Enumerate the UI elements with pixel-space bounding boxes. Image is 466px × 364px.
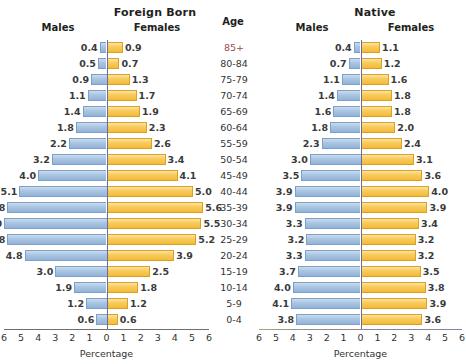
- female-value-label: 3.5: [423, 265, 440, 278]
- female-bar[interactable]: [108, 234, 197, 245]
- male-bar[interactable]: [354, 42, 361, 53]
- x-axis-tick-label: 2: [387, 332, 401, 343]
- male-bar[interactable]: [25, 250, 107, 261]
- female-bar[interactable]: [108, 106, 140, 117]
- male-bar[interactable]: [7, 202, 106, 213]
- x-axis-tick-label: 2: [134, 332, 148, 343]
- male-bar[interactable]: [7, 234, 106, 245]
- female-bar[interactable]: [362, 250, 416, 261]
- female-value-label: 1.9: [142, 105, 159, 118]
- female-value-label: 1.2: [384, 57, 401, 70]
- female-bar[interactable]: [362, 314, 423, 325]
- male-bar[interactable]: [306, 234, 360, 245]
- female-bar[interactable]: [108, 314, 118, 325]
- male-bar[interactable]: [295, 186, 361, 197]
- female-value-label: 3.4: [168, 153, 185, 166]
- male-bar[interactable]: [301, 170, 360, 181]
- female-bar[interactable]: [108, 74, 130, 85]
- x-axis-tick-label: 6: [0, 332, 11, 343]
- foreign-born-males-label: Males: [18, 22, 98, 33]
- male-bar[interactable]: [91, 74, 106, 85]
- male-bar[interactable]: [86, 298, 107, 309]
- female-bar[interactable]: [108, 90, 137, 101]
- female-bar[interactable]: [362, 42, 381, 53]
- female-bar[interactable]: [108, 170, 178, 181]
- female-bar[interactable]: [108, 202, 204, 213]
- x-axis-tick-label: 2: [320, 332, 334, 343]
- male-value-label: 1.1: [69, 89, 86, 102]
- male-bar[interactable]: [96, 314, 106, 325]
- male-bar[interactable]: [296, 314, 360, 325]
- female-bar[interactable]: [108, 298, 129, 309]
- female-bar[interactable]: [362, 74, 389, 85]
- female-bar[interactable]: [362, 298, 428, 309]
- male-bar[interactable]: [88, 90, 107, 101]
- pyramid-row: 4.13.9: [259, 296, 462, 312]
- female-bar[interactable]: [362, 170, 423, 181]
- male-bar[interactable]: [19, 186, 106, 197]
- male-bar[interactable]: [305, 218, 361, 229]
- male-bar[interactable]: [330, 122, 360, 133]
- pyramid-row: 6.05.5: [4, 216, 209, 232]
- age-group-label: 25-29: [206, 232, 262, 248]
- male-value-label: 3.3: [286, 249, 303, 262]
- female-bar[interactable]: [108, 250, 175, 261]
- female-bar[interactable]: [108, 154, 166, 165]
- female-bar[interactable]: [108, 186, 193, 197]
- female-value-label: 2.4: [404, 137, 421, 150]
- female-bar[interactable]: [108, 58, 120, 69]
- age-group-label: 20-24: [206, 248, 262, 264]
- male-bar[interactable]: [52, 154, 107, 165]
- female-bar[interactable]: [362, 138, 403, 149]
- female-bar[interactable]: [362, 90, 392, 101]
- female-bar[interactable]: [362, 234, 416, 245]
- male-bar[interactable]: [349, 58, 361, 69]
- male-bar[interactable]: [295, 202, 361, 213]
- female-bar[interactable]: [108, 122, 147, 133]
- male-bar[interactable]: [98, 58, 107, 69]
- male-bar[interactable]: [100, 42, 107, 53]
- x-axis-tick-label: 6: [252, 332, 266, 343]
- female-value-label: 1.8: [394, 105, 411, 118]
- female-bar[interactable]: [362, 186, 430, 197]
- x-axis-tick-label: 0: [100, 332, 114, 343]
- female-bar[interactable]: [108, 138, 152, 149]
- male-value-label: 3.0: [36, 265, 53, 278]
- male-value-label: 5.8: [0, 233, 5, 246]
- male-bar[interactable]: [69, 138, 107, 149]
- age-group-label: 30-34: [206, 216, 262, 232]
- male-bar[interactable]: [310, 154, 361, 165]
- female-bar[interactable]: [108, 282, 139, 293]
- male-bar[interactable]: [83, 106, 107, 117]
- female-bar[interactable]: [108, 42, 123, 53]
- male-bar[interactable]: [305, 250, 361, 261]
- female-bar[interactable]: [362, 266, 421, 277]
- pyramid-row: 3.02.5: [4, 264, 209, 280]
- female-bar[interactable]: [108, 266, 151, 277]
- male-bar[interactable]: [293, 282, 361, 293]
- female-value-label: 2.3: [149, 121, 166, 134]
- female-bar[interactable]: [362, 202, 428, 213]
- pyramid-row: 3.33.4: [259, 216, 462, 232]
- male-bar[interactable]: [76, 122, 107, 133]
- female-bar[interactable]: [362, 282, 426, 293]
- female-bar[interactable]: [362, 218, 420, 229]
- male-bar[interactable]: [337, 90, 361, 101]
- male-bar[interactable]: [298, 266, 361, 277]
- male-bar[interactable]: [291, 298, 360, 309]
- male-bar[interactable]: [342, 74, 361, 85]
- female-bar[interactable]: [362, 154, 414, 165]
- male-value-label: 3.7: [279, 265, 296, 278]
- female-bar[interactable]: [362, 106, 392, 117]
- male-bar[interactable]: [74, 282, 106, 293]
- x-axis-tick-label: 6: [455, 332, 466, 343]
- female-bar[interactable]: [362, 58, 382, 69]
- male-bar[interactable]: [55, 266, 106, 277]
- age-group-label: 5-9: [206, 296, 262, 312]
- female-bar[interactable]: [362, 122, 396, 133]
- male-bar[interactable]: [38, 170, 106, 181]
- male-bar[interactable]: [4, 218, 107, 229]
- female-bar[interactable]: [108, 218, 202, 229]
- male-bar[interactable]: [333, 106, 360, 117]
- male-bar[interactable]: [322, 138, 361, 149]
